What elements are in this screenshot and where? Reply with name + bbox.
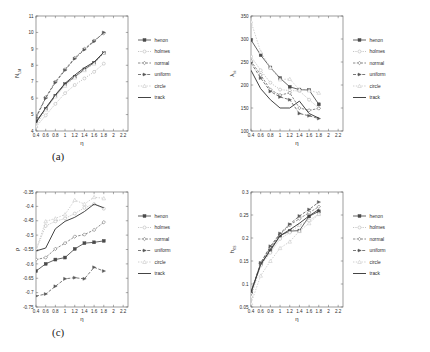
svg-text:0.4: 0.4 <box>248 133 255 138</box>
plot-b: 0.40.60.811.21.41.61.822.210015020025030… <box>215 0 430 176</box>
svg-text:2: 2 <box>112 309 115 314</box>
svg-text:track: track <box>370 271 381 276</box>
svg-text:300: 300 <box>241 37 249 42</box>
svg-text:1.6: 1.6 <box>306 133 313 138</box>
svg-text:1.6: 1.6 <box>306 309 313 314</box>
panel-label-c: (c) <box>52 326 64 338</box>
svg-text:1.4: 1.4 <box>296 133 303 138</box>
svg-text:2.2: 2.2 <box>120 133 127 138</box>
svg-text:uniform: uniform <box>155 72 171 77</box>
svg-text:henon: henon <box>155 38 169 43</box>
svg-text:0.6: 0.6 <box>257 133 264 138</box>
svg-text:0.2: 0.2 <box>242 236 249 241</box>
panel-b: 0.40.60.811.21.41.61.822.210015020025030… <box>215 0 430 176</box>
svg-text:0.6: 0.6 <box>257 309 264 314</box>
svg-text:1.2: 1.2 <box>72 309 79 314</box>
panel-c: 0.40.60.811.21.41.61.822.2-0.75-0.7-0.65… <box>0 176 215 352</box>
plot-a: 0.40.60.811.21.41.61.822.24567891011ηNLM… <box>0 0 215 176</box>
svg-text:0.6: 0.6 <box>42 309 49 314</box>
plot-d: 0.40.60.811.21.41.61.822.20.050.10.150.2… <box>215 176 430 352</box>
svg-text:uniform: uniform <box>370 72 386 77</box>
svg-text:100: 100 <box>241 129 249 134</box>
svg-text:1.8: 1.8 <box>101 133 108 138</box>
svg-text:circle: circle <box>155 84 167 89</box>
plot-c: 0.40.60.811.21.41.61.822.2-0.75-0.7-0.65… <box>0 176 215 352</box>
svg-text:8: 8 <box>31 63 34 68</box>
svg-text:1: 1 <box>64 133 67 138</box>
svg-text:-0.5: -0.5 <box>26 233 34 238</box>
svg-text:track: track <box>155 95 166 100</box>
svg-text:1: 1 <box>279 133 282 138</box>
svg-text:1.8: 1.8 <box>316 133 323 138</box>
panel-d: 0.40.60.811.21.41.61.822.20.050.10.150.2… <box>215 176 430 352</box>
svg-text:-0.6: -0.6 <box>26 262 34 267</box>
svg-text:0.25: 0.25 <box>240 213 249 218</box>
svg-text:normal: normal <box>155 237 170 242</box>
svg-text:normal: normal <box>370 237 385 242</box>
svg-text:1.4: 1.4 <box>81 133 88 138</box>
svg-text:0.6: 0.6 <box>42 133 49 138</box>
svg-text:0.8: 0.8 <box>267 133 274 138</box>
svg-text:normal: normal <box>370 61 385 66</box>
svg-text:-0.55: -0.55 <box>23 247 34 252</box>
svg-text:0.8: 0.8 <box>267 309 274 314</box>
svg-text:0.4: 0.4 <box>33 309 40 314</box>
svg-text:0.4: 0.4 <box>248 309 255 314</box>
svg-text:6: 6 <box>31 96 34 101</box>
svg-text:0.8: 0.8 <box>52 133 59 138</box>
svg-text:2.2: 2.2 <box>120 309 127 314</box>
svg-text:-0.65: -0.65 <box>23 276 34 281</box>
svg-text:2.2: 2.2 <box>335 309 342 314</box>
svg-text:0.3: 0.3 <box>242 190 249 195</box>
svg-text:holmes: holmes <box>370 49 386 54</box>
svg-text:2.2: 2.2 <box>335 133 342 138</box>
svg-text:2: 2 <box>112 133 115 138</box>
svg-text:track: track <box>370 95 381 100</box>
svg-text:track: track <box>155 271 166 276</box>
svg-text:-0.7: -0.7 <box>26 290 34 295</box>
svg-text:λhk: λhk <box>229 70 237 77</box>
svg-text:4: 4 <box>31 129 34 134</box>
svg-text:1.8: 1.8 <box>316 309 323 314</box>
svg-text:350: 350 <box>241 14 249 19</box>
svg-text:η: η <box>295 140 298 146</box>
svg-text:henon: henon <box>155 214 169 219</box>
svg-text:circle: circle <box>370 260 382 265</box>
svg-text:200: 200 <box>241 83 249 88</box>
svg-text:circle: circle <box>155 260 167 265</box>
svg-text:11: 11 <box>29 14 34 19</box>
svg-text:250: 250 <box>241 60 249 65</box>
svg-text:circle: circle <box>370 84 382 89</box>
svg-text:1.2: 1.2 <box>287 133 294 138</box>
svg-text:5: 5 <box>31 112 34 117</box>
svg-text:NLM: NLM <box>14 69 22 78</box>
svg-text:9: 9 <box>31 47 34 52</box>
svg-text:1.4: 1.4 <box>81 309 88 314</box>
svg-text:7: 7 <box>31 79 34 84</box>
svg-text:1.2: 1.2 <box>72 133 79 138</box>
svg-text:1: 1 <box>279 309 282 314</box>
svg-text:2: 2 <box>327 309 330 314</box>
svg-text:-0.35: -0.35 <box>23 190 34 195</box>
svg-text:-0.75: -0.75 <box>23 305 34 310</box>
svg-text:holmes: holmes <box>155 49 171 54</box>
svg-text:uniform: uniform <box>370 248 386 253</box>
svg-text:1.8: 1.8 <box>101 309 108 314</box>
svg-text:0.4: 0.4 <box>33 133 40 138</box>
svg-text:η: η <box>80 140 83 146</box>
svg-text:normal: normal <box>155 61 170 66</box>
figure-container: 0.40.60.811.21.41.61.822.24567891011ηNLM… <box>0 0 430 352</box>
svg-text:10: 10 <box>28 30 34 35</box>
svg-text:0.15: 0.15 <box>240 259 249 264</box>
panel-a: 0.40.60.811.21.41.61.822.24567891011ηNLM… <box>0 0 215 176</box>
panel-label-a: (a) <box>52 150 64 162</box>
svg-text:uniform: uniform <box>155 248 171 253</box>
svg-text:η: η <box>80 316 83 322</box>
svg-text:1: 1 <box>64 309 67 314</box>
svg-text:holmes: holmes <box>370 225 386 230</box>
svg-text:-0.4: -0.4 <box>26 204 34 209</box>
svg-text:0.8: 0.8 <box>52 309 59 314</box>
svg-text:0.1: 0.1 <box>242 282 249 287</box>
svg-text:hKS: hKS <box>229 246 237 254</box>
svg-text:1.6: 1.6 <box>91 309 98 314</box>
